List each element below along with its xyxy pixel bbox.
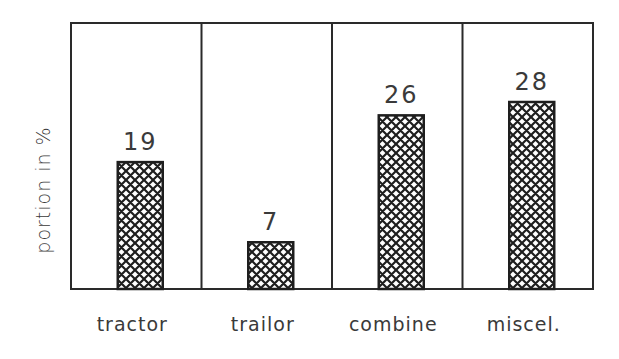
value-label: 7 xyxy=(262,208,279,236)
value-label: 19 xyxy=(123,128,158,156)
bar-tractor xyxy=(118,162,163,289)
bar-combine xyxy=(379,115,424,289)
x-tick-label: tractor xyxy=(97,313,168,335)
value-label: 28 xyxy=(514,68,549,96)
x-tick-label: trailor xyxy=(231,313,295,335)
y-axis-label: portion in % xyxy=(32,126,54,253)
x-tick-label: combine xyxy=(349,313,438,335)
bars-group xyxy=(118,102,555,289)
chart-canvas xyxy=(0,0,619,359)
bar-miscel xyxy=(509,102,554,289)
bar-trailor xyxy=(248,242,293,289)
bar-chart: portion in % tractortrailorcombinemiscel… xyxy=(0,0,619,359)
x-tick-label: miscel. xyxy=(487,313,561,335)
value-label: 26 xyxy=(384,81,419,109)
